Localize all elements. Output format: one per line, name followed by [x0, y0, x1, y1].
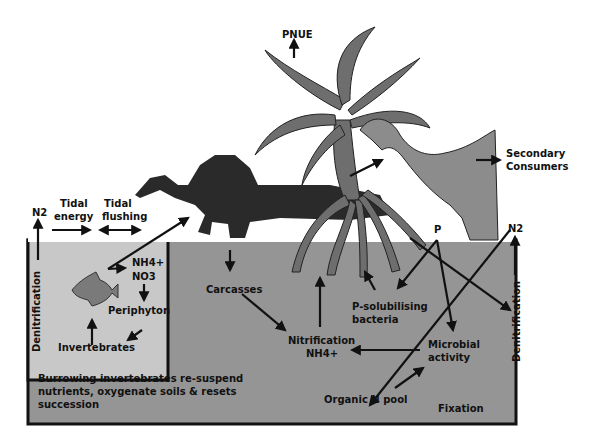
- label-p: P: [434, 223, 441, 236]
- label-fixation: Fixation: [438, 402, 484, 415]
- label-p-solubilising-2: bacteria: [352, 313, 399, 326]
- label-p-solubilising-1: P-solubilising: [352, 300, 428, 313]
- label-tidal-energy-2: energy: [54, 210, 93, 223]
- label-organic-n-pool: Organic N pool: [324, 393, 407, 406]
- label-burrowing: Burrowing invertebrates re-suspend nutri…: [38, 372, 288, 411]
- label-no3: NO3: [132, 270, 156, 283]
- label-carcasses: Carcasses: [206, 283, 262, 296]
- label-secondary-consumers-2: Consumers: [506, 160, 569, 173]
- label-n2-right: N2: [508, 222, 523, 235]
- label-n2-left: N2: [32, 206, 47, 219]
- label-denitrification-right: Denitrification: [510, 281, 523, 362]
- label-tidal-flushing-2: flushing: [102, 210, 147, 223]
- label-nitrification-2: NH4+: [306, 347, 338, 360]
- label-nh4: NH4+: [132, 256, 164, 269]
- label-denitrification-left: Denitrification: [30, 271, 43, 352]
- label-microbial-2: activity: [428, 351, 470, 364]
- label-nitrification-1: Nitrification: [288, 334, 355, 347]
- label-microbial-1: Microbial: [428, 338, 480, 351]
- label-periphyton: Periphyton: [108, 304, 170, 317]
- label-secondary-consumers-1: Secondary: [506, 147, 565, 160]
- label-invertebrates: Invertebrates: [58, 341, 135, 354]
- label-pnue: PNUE: [282, 28, 313, 41]
- label-tidal-flushing-1: Tidal: [104, 197, 132, 210]
- label-tidal-energy-1: Tidal: [60, 197, 88, 210]
